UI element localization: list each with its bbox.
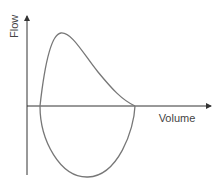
flow-volume-diagram: Flow Volume: [0, 0, 223, 183]
inspiratory-limb: [40, 106, 135, 177]
x-axis-label: Volume: [159, 112, 196, 124]
y-axis-label: Flow: [8, 15, 20, 38]
expiratory-limb: [40, 33, 135, 106]
